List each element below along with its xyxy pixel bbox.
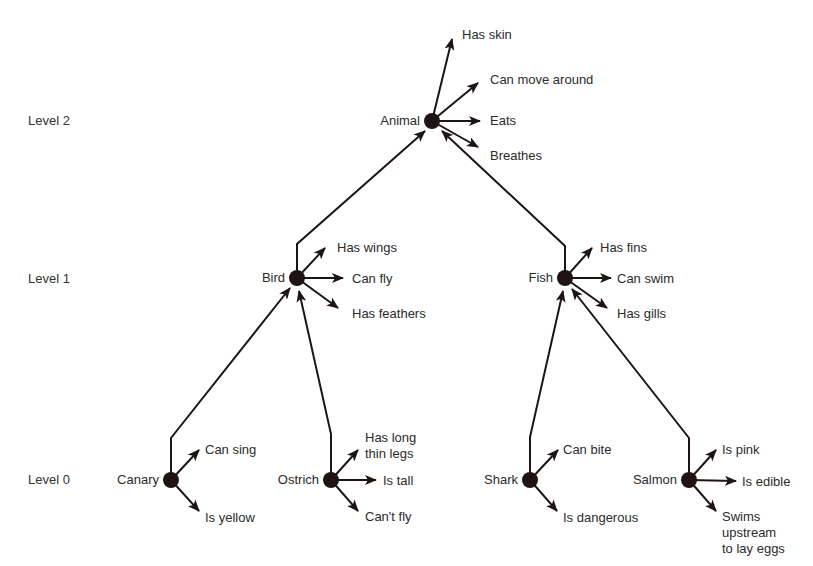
isa-links bbox=[171, 131, 689, 474]
node-label-fish: Fish bbox=[528, 270, 553, 286]
property-label-salmon: Is pink bbox=[722, 442, 760, 458]
node-label-ostrich: Ostrich bbox=[278, 472, 319, 488]
node-fish bbox=[557, 270, 573, 286]
isa-link-ostrich-to-bird bbox=[299, 291, 331, 474]
node-label-shark: Shark bbox=[484, 472, 518, 488]
concept-nodes bbox=[163, 113, 697, 488]
property-label-canary: Can sing bbox=[205, 442, 256, 458]
node-label-salmon: Salmon bbox=[633, 472, 677, 488]
node-salmon bbox=[681, 472, 697, 488]
level-2-label: Level 2 bbox=[28, 113, 70, 129]
property-label-shark: Can bite bbox=[563, 442, 611, 458]
property-label-shark: Is dangerous bbox=[563, 510, 638, 526]
property-label-bird: Can fly bbox=[352, 271, 392, 287]
property-label-canary: Is yellow bbox=[205, 510, 255, 526]
property-label-animal: Can move around bbox=[490, 72, 593, 88]
property-label-animal: Has skin bbox=[462, 27, 512, 43]
property-label-fish: Has fins bbox=[600, 240, 647, 256]
node-label-canary: Canary bbox=[117, 472, 159, 488]
property-label-bird: Has wings bbox=[337, 240, 397, 256]
property-arrow-animal bbox=[432, 39, 452, 121]
level-0-label: Level 0 bbox=[28, 472, 70, 488]
property-label-fish: Has gills bbox=[617, 306, 666, 322]
property-label-ostrich: Is tall bbox=[383, 473, 413, 489]
isa-link-shark-to-fish bbox=[530, 291, 563, 474]
node-ostrich bbox=[323, 472, 339, 488]
property-label-salmon: Swims upstream to lay eggs bbox=[722, 509, 785, 557]
property-label-ostrich: Has long thin legs bbox=[365, 430, 416, 462]
property-label-bird: Has feathers bbox=[352, 306, 426, 322]
property-label-fish: Can swim bbox=[617, 271, 674, 287]
property-label-animal: Breathes bbox=[490, 148, 542, 164]
property-label-ostrich: Can't fly bbox=[365, 509, 412, 525]
node-label-animal: Animal bbox=[380, 113, 420, 129]
node-canary bbox=[163, 472, 179, 488]
node-shark bbox=[522, 472, 538, 488]
level-1-label: Level 1 bbox=[28, 271, 70, 287]
property-label-animal: Eats bbox=[490, 113, 516, 129]
property-label-salmon: Is edible bbox=[742, 474, 790, 490]
node-label-bird: Bird bbox=[262, 270, 285, 286]
node-bird bbox=[289, 270, 305, 286]
node-animal bbox=[424, 113, 440, 129]
